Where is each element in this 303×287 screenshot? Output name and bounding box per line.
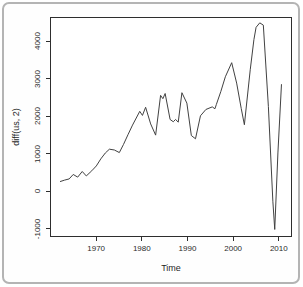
y-tick-label: 0 [33, 189, 42, 193]
y-tick-mark [46, 78, 50, 79]
x-tick-label: 2010 [270, 244, 288, 253]
y-tick-mark [46, 153, 50, 154]
x-tick-mark [96, 237, 97, 241]
series-line [60, 23, 281, 230]
y-tick-label: 2000 [33, 107, 42, 125]
chart-frame: 19701980199020002010-1000010002000300040… [2, 2, 300, 284]
x-tick-mark [278, 237, 279, 241]
x-tick-label: 2000 [224, 244, 242, 253]
x-tick-mark [233, 237, 234, 241]
y-tick-mark [46, 116, 50, 117]
x-tick-label: 1970 [87, 244, 105, 253]
screenshot: 19701980199020002010-1000010002000300040… [0, 0, 303, 287]
y-tick-mark [46, 228, 50, 229]
x-tick-label: 1980 [133, 244, 151, 253]
y-tick-mark [46, 191, 50, 192]
y-axis-title: diff(us, 2) [11, 108, 21, 145]
x-tick-label: 1990 [179, 244, 197, 253]
x-axis-title: Time [50, 263, 292, 273]
x-tick-mark [187, 237, 188, 241]
y-tick-label: -1000 [33, 218, 42, 238]
y-tick-label: 3000 [33, 70, 42, 88]
y-tick-label: 1000 [33, 145, 42, 163]
x-tick-mark [141, 237, 142, 241]
y-tick-label: 4000 [33, 32, 42, 50]
y-tick-mark [46, 41, 50, 42]
plot-box [50, 17, 292, 237]
series-svg [51, 18, 291, 236]
